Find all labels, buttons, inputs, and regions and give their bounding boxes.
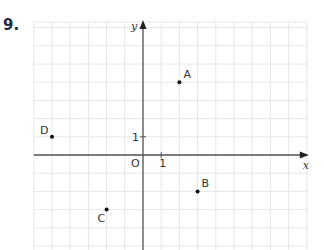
coordinate-grid: x y O 1 1 ABCD bbox=[0, 0, 324, 250]
point-label: B bbox=[202, 177, 210, 190]
x-axis-arrow-icon bbox=[300, 152, 309, 159]
point-label: D bbox=[40, 124, 48, 137]
x-tick-label: 1 bbox=[159, 157, 166, 170]
point-label: A bbox=[183, 68, 191, 81]
y-axis-arrow-icon bbox=[140, 20, 147, 29]
y-tick-label: 1 bbox=[132, 131, 139, 144]
axes: x y O 1 1 bbox=[34, 20, 310, 250]
x-axis-label: x bbox=[303, 159, 310, 172]
point-dot-icon bbox=[50, 135, 54, 139]
point-dot-icon bbox=[196, 189, 200, 193]
gridlines bbox=[34, 22, 307, 250]
origin-label: O bbox=[131, 157, 140, 170]
point-dot-icon bbox=[177, 80, 181, 84]
y-axis-label: y bbox=[130, 20, 138, 33]
point-label: C bbox=[98, 212, 106, 225]
